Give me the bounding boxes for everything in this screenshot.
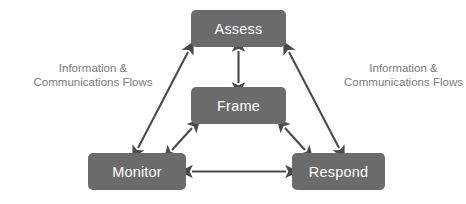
node-frame[interactable]: Frame (191, 87, 286, 124)
flow-label-left-line1: Information & (14, 62, 172, 76)
node-assess[interactable]: Assess (191, 10, 286, 47)
node-monitor[interactable]: Monitor (88, 153, 186, 190)
flow-label-left-line2: Communications Flows (14, 76, 172, 90)
node-assess-label: Assess (215, 21, 263, 37)
connector-frame-respond (285, 128, 305, 150)
node-monitor-label: Monitor (112, 164, 162, 180)
connector-frame-monitor (172, 128, 192, 150)
flow-label-left: Information & Communications Flows (14, 62, 172, 89)
node-respond-label: Respond (309, 164, 368, 180)
node-respond[interactable]: Respond (292, 153, 385, 190)
flow-label-right: Information & Communications Flows (326, 62, 466, 89)
flow-label-right-line1: Information & (326, 62, 466, 76)
flow-label-right-line2: Communications Flows (326, 76, 466, 90)
node-frame-label: Frame (217, 98, 260, 114)
diagram-canvas: Assess Frame Monitor Respond Information… (0, 0, 466, 204)
